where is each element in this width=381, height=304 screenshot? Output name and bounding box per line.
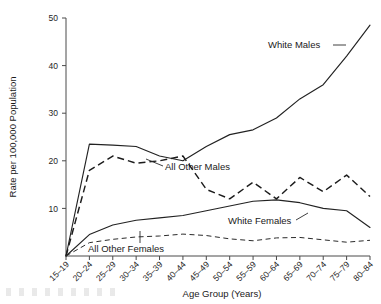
x-tick-label: 55–59 — [234, 259, 258, 283]
y-axis-ticks — [62, 18, 66, 208]
y-axis-title: Rate per 100,000 Population — [7, 77, 18, 198]
annotation-white-males-label: White Males — [268, 39, 321, 50]
chart-series-group — [66, 25, 370, 256]
chart-axes — [66, 18, 370, 256]
y-tick-label: 10 — [49, 204, 59, 214]
annotation-white-males: White Males — [268, 39, 346, 50]
annotation-all-other-males: All Other Males — [146, 159, 230, 172]
chart-figure: 1020304050 15–1920–2425–2930–3435–3940–4… — [0, 0, 381, 304]
series-line-white-males — [66, 25, 370, 256]
y-tick-label: 50 — [49, 13, 59, 23]
line-chart: 1020304050 15–1920–2425–2930–3435–3940–4… — [0, 0, 381, 304]
x-axis-title: Age Group (Years) — [183, 288, 262, 299]
annotation-all-other-females-label: All Other Females — [88, 243, 164, 254]
y-tick-label: 40 — [49, 61, 59, 71]
annotation-white-females: White Females — [228, 213, 308, 226]
y-tick-label: 30 — [49, 108, 59, 118]
x-tick-label: 75–79 — [328, 259, 352, 283]
annotation-white-females-label: White Females — [228, 215, 292, 226]
x-axis-tick-labels: 15–1920–2425–2930–3435–3940–4445–4950–54… — [47, 259, 375, 283]
x-axis-ticks — [66, 256, 370, 260]
x-tick-label: 20–24 — [71, 259, 95, 283]
x-tick-label: 45–49 — [187, 259, 211, 283]
x-tick-label: 35–39 — [141, 259, 165, 283]
y-tick-label: 20 — [49, 156, 59, 166]
x-tick-label: 15–19 — [47, 259, 71, 283]
scan-artifact — [6, 288, 116, 296]
annotation-all-other-males-label: All Other Males — [165, 161, 230, 172]
annotation-all-other-females: All Other Females — [88, 231, 164, 254]
x-tick-label: 60–64 — [258, 259, 282, 283]
x-tick-label: 30–34 — [117, 259, 141, 283]
x-tick-label: 80–84 — [351, 259, 375, 283]
x-tick-label: 65–69 — [281, 259, 305, 283]
x-tick-label: 25–29 — [94, 259, 118, 283]
x-tick-label: 40–44 — [164, 259, 188, 283]
x-tick-label: 50–54 — [211, 259, 235, 283]
y-axis-tick-labels: 1020304050 — [49, 13, 59, 213]
x-tick-label: 70–74 — [304, 259, 328, 283]
annotation-white-females-leader — [296, 213, 308, 220]
